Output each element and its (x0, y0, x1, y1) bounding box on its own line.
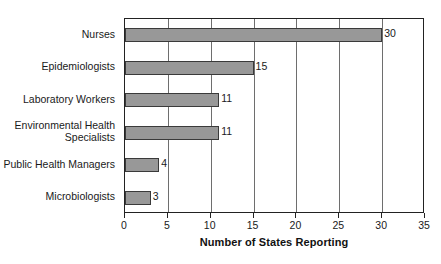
x-tick-mark (295, 213, 296, 218)
bar-value-label: 15 (256, 61, 268, 72)
x-tick-label: 35 (418, 219, 430, 231)
x-tick-mark (338, 213, 339, 218)
bar-value-label: 11 (221, 126, 232, 137)
x-tick-label: 10 (204, 219, 216, 231)
x-tick-mark (424, 213, 425, 218)
category-axis-labels: Nurses Epidemiologists Laboratory Worker… (0, 18, 120, 213)
x-tick-label: 30 (375, 219, 387, 231)
x-tick-label: 0 (121, 219, 127, 231)
bar-value-label: 3 (153, 191, 159, 202)
gridline (211, 19, 212, 212)
x-tick-mark (253, 213, 254, 218)
plot-area (124, 18, 424, 213)
x-tick-mark (381, 213, 382, 218)
x-tick-mark (210, 213, 211, 218)
bar (125, 93, 219, 107)
category-label: Public Health Managers (4, 159, 115, 171)
bar-value-label: 4 (161, 158, 167, 169)
bar (125, 126, 219, 140)
bar (125, 158, 159, 172)
bar-value-label: 30 (384, 28, 396, 39)
x-tick-label: 25 (332, 219, 344, 231)
gridline (168, 19, 169, 212)
bar-chart: Nurses Epidemiologists Laboratory Worker… (0, 0, 441, 264)
x-tick-label: 20 (290, 219, 302, 231)
x-tick-mark (124, 213, 125, 218)
x-tick-label: 15 (247, 219, 259, 231)
x-tick-mark (167, 213, 168, 218)
bar (125, 191, 151, 205)
category-label: Microbiologists (46, 191, 115, 203)
bar-value-label: 11 (221, 93, 232, 104)
gridline (254, 19, 255, 212)
gridline (296, 19, 297, 212)
category-label: Laboratory Workers (23, 94, 115, 106)
category-label: Environmental Health Specialists (15, 120, 115, 143)
category-label: Nurses (82, 29, 115, 41)
gridline (339, 19, 340, 212)
bar (125, 61, 254, 75)
gridline (382, 19, 383, 212)
category-label: Epidemiologists (41, 61, 115, 73)
bar (125, 28, 382, 42)
x-tick-label: 5 (164, 219, 170, 231)
x-axis-title: Number of States Reporting (124, 236, 424, 248)
